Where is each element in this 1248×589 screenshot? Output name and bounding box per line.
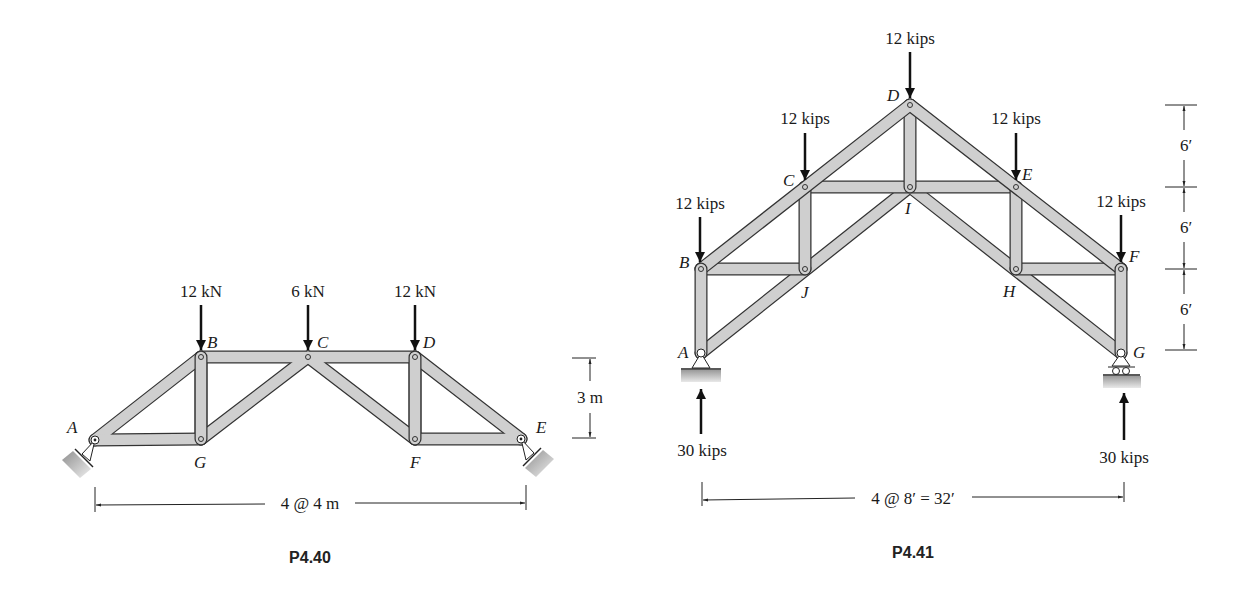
load-label-d: 12 kN: [394, 282, 436, 301]
joints: [199, 355, 418, 442]
members: [95, 357, 521, 440]
node-label-g: G: [194, 453, 206, 472]
reaction-arrow-g: 30 kips: [1099, 393, 1149, 467]
node-label-e: E: [1021, 165, 1033, 184]
reaction-label-a: 30 kips: [677, 441, 727, 460]
node-label-e: E: [535, 418, 547, 437]
height-label: 3 m: [577, 388, 603, 407]
span-dimension: 4 @ 8′ = 32′: [702, 482, 1124, 508]
truss-p4-40: 12 kN 6 kN 12 kN A B C D E F G 3 m: [62, 282, 603, 566]
truss-diagrams: 12 kN 6 kN 12 kN A B C D E F G 3 m: [0, 0, 1248, 589]
load-label-b: 12 kN: [180, 282, 222, 301]
node-label-j: J: [801, 283, 810, 302]
figure-caption: P4.40: [289, 549, 331, 566]
node-label-a: A: [677, 343, 689, 362]
height-label-1: 6′: [1180, 136, 1192, 155]
figure-caption: P4.41: [892, 544, 934, 561]
load-label-c: 12 kips: [780, 109, 830, 128]
span-label: 4 @ 8′ = 32′: [871, 489, 955, 508]
load-label-d: 12 kips: [885, 29, 935, 48]
reaction-label-g: 30 kips: [1099, 448, 1149, 467]
load-label-e: 12 kips: [991, 109, 1041, 128]
node-label-a: A: [66, 418, 78, 437]
pin-support-e: [517, 435, 554, 477]
members: [701, 105, 1121, 353]
load-label-b: 12 kips: [675, 194, 725, 213]
node-label-h: H: [1002, 282, 1017, 301]
truss-p4-41: 12 kips 12 kips 12 kips 12 kips 12 kips …: [675, 29, 1197, 561]
node-label-b: B: [679, 253, 690, 272]
load-label-f: 12 kips: [1096, 192, 1146, 211]
node-label-c: C: [317, 333, 329, 352]
reaction-arrow-a: 30 kips: [677, 389, 727, 460]
node-label-b: B: [207, 333, 218, 352]
height-label-2: 6′: [1180, 218, 1192, 237]
span-label: 4 @ 4 m: [281, 494, 340, 513]
node-label-i: I: [904, 199, 912, 218]
node-label-d: D: [422, 333, 436, 352]
height-dimensions: 6′ 6′ 6′: [1165, 105, 1197, 350]
load-label-c: 6 kN: [291, 282, 325, 301]
node-label-f: F: [409, 453, 421, 472]
span-dimension: 4 @ 4 m: [95, 485, 526, 513]
node-label-c: C: [783, 171, 795, 190]
pin-support-a: [62, 436, 99, 478]
height-dimension: 3 m: [572, 358, 603, 438]
node-label-d: D: [886, 86, 900, 105]
node-label-f: F: [1128, 247, 1140, 266]
node-label-g: G: [1133, 343, 1145, 362]
height-label-3: 6′: [1180, 300, 1192, 319]
